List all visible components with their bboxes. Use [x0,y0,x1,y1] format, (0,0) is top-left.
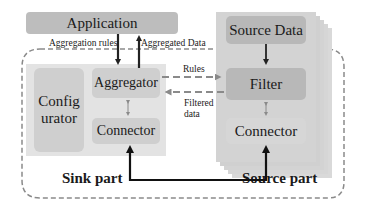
sink-connector-arrowhead [126,145,134,153]
source-connector-arrowhead [262,145,270,153]
arrow-layer [0,0,371,213]
connector-link [130,152,266,180]
